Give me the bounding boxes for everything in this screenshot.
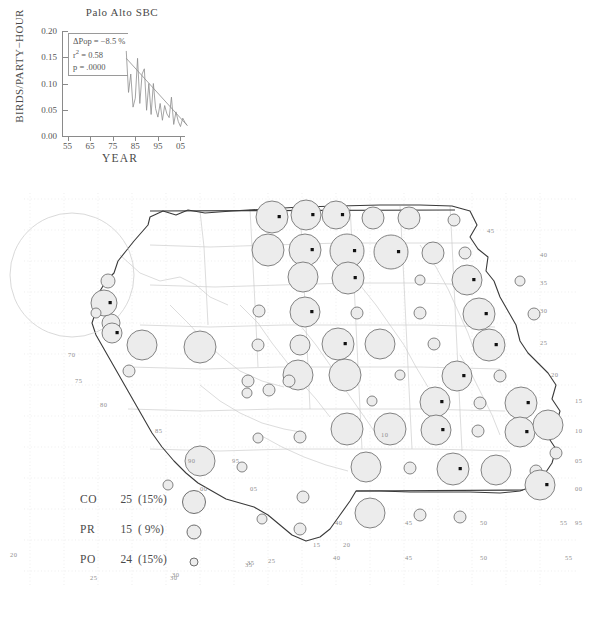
legend-count: 25 [114,493,132,505]
survey-marker-square [344,342,347,345]
legend-circle-symbol [187,525,202,540]
survey-circle [414,307,426,319]
x-axis-label: YEAR [60,152,180,164]
survey-circle [127,330,157,360]
survey-circle [395,370,405,380]
state-boundary-line [120,255,228,305]
latitude-label: 10 [575,427,583,434]
southern-straight-border [356,490,523,491]
longitude-label: 05 [250,485,258,492]
y-tick-label: 0.20 [41,26,57,36]
legend-code: CO [80,493,97,505]
survey-circle [289,234,321,266]
survey-circle [362,207,384,229]
longitude-label: 50 [480,554,488,561]
latitude-label: 05 [575,457,583,464]
legend-percent: (15%) [138,493,167,505]
longitude-label: 40 [333,554,341,561]
survey-marker-square [397,250,400,253]
survey-circle [550,447,562,459]
survey-marker-square [354,276,357,279]
latitude-label: 15 [575,397,583,404]
legend-percent: ( 9%) [138,523,164,535]
survey-marker-square [278,215,281,218]
survey-marker-square [441,428,444,431]
y-tick-label: 0.15 [41,52,57,62]
delta-pop-line: ΔPop = −8.5 % [73,35,125,47]
survey-circle [252,339,264,351]
state-boundary-line [200,211,208,325]
x-tick-label: 55 [63,141,72,151]
r-squared-line: r2 = 0.58 [73,47,125,61]
survey-circle [505,417,535,447]
survey-marker-square [116,331,119,334]
survey-circle [420,387,450,417]
legend-row: PR15( 9%) [66,517,241,547]
latitude-label: 20 [551,371,559,378]
p-value-number: .0000 [86,62,105,72]
survey-circle [525,470,555,500]
survey-circle [374,235,408,269]
legend-code: PR [80,523,95,535]
survey-circle [252,234,284,266]
survey-circle [101,274,115,288]
longitude-label: 40 [335,519,343,526]
r-squared-exponent: 2 [76,48,79,55]
y-tick-mark [63,84,68,85]
legend-count: 24 [114,553,132,565]
survey-circle [515,276,525,286]
survey-circle [421,415,451,445]
chart-title: Palo Alto SBC [62,6,182,18]
survey-circle [291,200,321,230]
longitude-label: 45 [405,519,413,526]
legend-circle-symbol [190,558,199,567]
legend-row: PO24(15%) [66,547,241,577]
longitude-label: 75 [75,377,83,384]
statistics-annotation: ΔPop = −8.5 % r2 = 0.58 p = .0000 [68,33,128,76]
x-tick-label: 65 [86,141,95,151]
y-tick-label: 0.10 [41,79,57,89]
survey-circle [329,359,361,391]
survey-circle [332,262,364,294]
survey-circle [452,265,482,295]
survey-circle [505,387,537,419]
survey-marker-square [527,401,530,404]
x-tick-label: 95 [153,141,162,151]
survey-circle [322,328,354,360]
survey-circle [253,433,263,443]
longitude-label: 55 [565,554,573,561]
survey-circle [290,297,320,327]
survey-circle [257,514,267,524]
longitude-label: 25 [268,557,276,564]
survey-marker-square [341,213,344,216]
survey-marker-square [525,430,528,433]
longitude-label: 50 [480,519,488,526]
survey-circle [297,491,309,503]
survey-circle [283,375,295,387]
survey-circle [528,308,540,320]
latitude-label: 00 [575,485,583,492]
survey-marker-square [109,301,112,304]
survey-circle [242,388,252,398]
map-legend: CO25(15%)PR15( 9%)PO24(15%) [66,487,241,577]
legend-row: CO25(15%) [66,487,241,517]
x-tick-label: 75 [108,141,117,151]
survey-circle [494,370,506,382]
trend-chart-panel: Palo Alto SBC BIRDS/PARTY−HOUR 0.000.050… [0,0,230,180]
survey-circle [472,425,484,437]
y-tick-mark [63,31,68,32]
survey-marker-square [311,248,314,251]
survey-circle [437,453,469,485]
survey-circle [398,207,420,229]
survey-circle [404,462,416,474]
longitude-label: 20 [10,551,18,558]
survey-circle [242,375,254,387]
survey-circle [331,413,363,445]
latitude-label: 95 [575,519,583,526]
survey-circle [463,298,495,330]
survey-circle [355,498,385,528]
y-tick-mark [63,110,68,111]
survey-marker-square [459,467,462,470]
survey-circle [288,262,318,292]
survey-marker-square [310,310,313,313]
